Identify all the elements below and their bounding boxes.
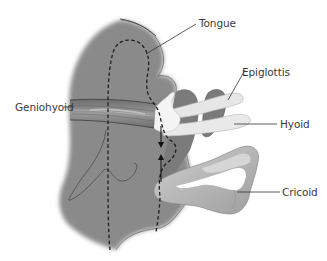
hyoid-bone	[151, 92, 251, 136]
label-geniohyoid: Geniohyoid	[15, 102, 73, 113]
label-tongue: Tongue	[199, 18, 236, 29]
label-hyoid: Hyoid	[280, 119, 310, 130]
label-cricoid: Cricoid	[282, 187, 318, 198]
diagram-canvas: Tongue Epiglottis Geniohyoid Hyoid Crico…	[0, 0, 327, 261]
anatomy-illustration	[0, 0, 327, 261]
label-epiglottis: Epiglottis	[242, 67, 290, 78]
